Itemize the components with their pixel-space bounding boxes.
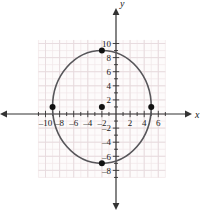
x-tick-label: –6 (68, 118, 79, 128)
ellipse-graph-figure: –10–8–6–4–2246108642–2–4–6–8 x y (0, 0, 200, 210)
y-axis-label: y (119, 0, 125, 9)
y-tick-label: –4 (101, 137, 112, 147)
x-tick-label: 2 (128, 118, 133, 128)
y-tick-label: 10 (102, 39, 112, 49)
y-tick-label: –6 (101, 152, 112, 162)
coordinate-plane-chart: –10–8–6–4–2246108642–2–4–6–8 x y (0, 0, 200, 210)
data-point-bottom-vertex (99, 160, 105, 166)
y-tick-label: 8 (107, 53, 112, 63)
x-tick-label: –10 (38, 118, 53, 128)
x-tick-label: 6 (156, 118, 161, 128)
x-tick-label: 4 (142, 118, 147, 128)
data-point-left-vertex (50, 104, 56, 110)
x-tick-label: –4 (82, 118, 93, 128)
y-tick-label: –8 (101, 166, 112, 176)
data-point-center (99, 104, 105, 110)
y-tick-label: 2 (107, 95, 112, 105)
y-tick-label: 6 (107, 67, 112, 77)
y-tick-label: –2 (101, 123, 111, 133)
data-point-top-vertex (99, 48, 105, 54)
data-point-right-vertex (148, 104, 154, 110)
x-axis-label: x (194, 109, 200, 120)
y-tick-label: 4 (107, 81, 112, 91)
